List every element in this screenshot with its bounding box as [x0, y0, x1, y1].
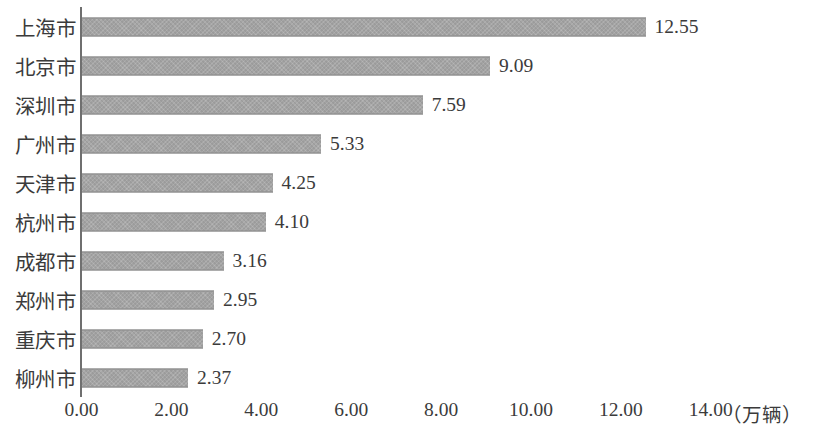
bar-row: 北京市9.09	[0, 46, 820, 85]
bar[interactable]	[82, 56, 491, 75]
bar-with-value: 4.10	[82, 212, 309, 231]
x-axis: 0.002.004.006.008.0010.0012.0014.00 （万辆）	[0, 399, 820, 429]
bar[interactable]	[82, 251, 224, 270]
bar[interactable]	[82, 95, 423, 114]
bar[interactable]	[82, 134, 322, 153]
x-axis-tick-label: 6.00	[334, 399, 368, 421]
bar-value-label: 4.25	[282, 172, 316, 194]
x-axis-tick-label: 8.00	[424, 399, 458, 421]
category-label: 郑州市	[15, 285, 77, 315]
bar-row: 郑州市2.95	[0, 280, 820, 319]
bar-value-label: 2.70	[212, 328, 246, 350]
plot-area: 上海市12.55北京市9.09深圳市7.59广州市5.33天津市4.25杭州市4…	[0, 0, 820, 429]
bar-value-label: 12.55	[655, 16, 699, 38]
bar[interactable]	[82, 173, 273, 192]
x-axis-tick-label: 0.00	[64, 399, 98, 421]
bar-with-value: 12.55	[82, 17, 699, 36]
x-axis-tick-label: 12.00	[599, 399, 643, 421]
category-label: 深圳市	[15, 90, 77, 120]
bar-row: 重庆市2.70	[0, 319, 820, 358]
bar-value-label: 5.33	[330, 133, 364, 155]
bar-with-value: 7.59	[82, 95, 466, 114]
x-axis-tick-label: 4.00	[244, 399, 278, 421]
bar-row: 天津市4.25	[0, 163, 820, 202]
bar-value-label: 9.09	[499, 55, 533, 77]
bar-value-label: 7.59	[432, 94, 466, 116]
bar-value-label: 4.10	[275, 211, 309, 233]
x-axis-tick-label: 2.00	[154, 399, 188, 421]
bar-with-value: 5.33	[82, 134, 365, 153]
bar-with-value: 2.37	[82, 368, 232, 387]
category-label: 柳州市	[15, 363, 77, 393]
bar-row: 柳州市2.37	[0, 358, 820, 397]
bar[interactable]	[82, 368, 189, 387]
bar-value-label: 3.16	[233, 250, 267, 272]
bar[interactable]	[82, 329, 203, 348]
bar-with-value: 4.25	[82, 173, 316, 192]
category-label: 广州市	[15, 129, 77, 159]
category-label: 成都市	[15, 246, 77, 276]
bar[interactable]	[82, 212, 266, 231]
bar[interactable]	[82, 17, 646, 36]
bar-row: 深圳市7.59	[0, 85, 820, 124]
bar-with-value: 9.09	[82, 56, 534, 75]
bar-value-label: 2.37	[197, 367, 231, 389]
x-axis-tick-label: 10.00	[509, 399, 553, 421]
bar-row: 广州市5.33	[0, 124, 820, 163]
bar-row: 成都市3.16	[0, 241, 820, 280]
category-label: 重庆市	[15, 324, 77, 354]
bar-row: 杭州市4.10	[0, 202, 820, 241]
category-label: 天津市	[15, 168, 77, 198]
category-label: 北京市	[15, 51, 77, 81]
bar-row: 上海市12.55	[0, 7, 820, 46]
x-axis-unit-label: （万辆）	[722, 399, 802, 428]
category-label: 杭州市	[15, 207, 77, 237]
bar-value-label: 2.95	[223, 289, 257, 311]
bar[interactable]	[82, 290, 215, 309]
category-label: 上海市	[15, 12, 77, 42]
bar-chart: 上海市12.55北京市9.09深圳市7.59广州市5.33天津市4.25杭州市4…	[0, 0, 820, 429]
bar-with-value: 2.95	[82, 290, 258, 309]
bar-with-value: 2.70	[82, 329, 246, 348]
bar-with-value: 3.16	[82, 251, 267, 270]
